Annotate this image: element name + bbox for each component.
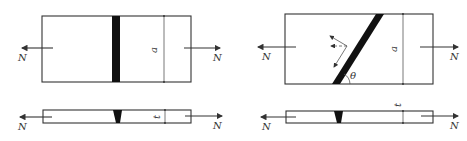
butt-weld-diagram: a N N t N N θ a N: [0, 0, 467, 141]
width-label-oblique: a: [388, 46, 399, 52]
thickness-label-oblique: t: [392, 102, 403, 107]
weld-oblique: [332, 14, 384, 84]
side-force-label-right-oblique: N: [449, 120, 460, 131]
weld-side-straight: [113, 110, 122, 123]
side-force-label-left: N: [17, 121, 28, 132]
weld-side-oblique: [334, 111, 343, 123]
normal-stress-arrow: [330, 36, 347, 46]
angle-label: θ: [350, 70, 356, 81]
force-label-right-oblique: N: [449, 51, 460, 62]
width-label: a: [148, 47, 159, 53]
weld-straight: [112, 16, 120, 82]
force-label-right: N: [212, 52, 223, 63]
straight-weld-panel: a N N t N N: [17, 16, 223, 132]
force-label-left: N: [17, 52, 28, 63]
plate-side-view-oblique: [286, 111, 433, 123]
oblique-weld-panel: θ a N N t N N: [258, 14, 460, 132]
side-force-label-left-oblique: N: [261, 121, 272, 132]
force-label-left-oblique: N: [261, 51, 272, 62]
thickness-label: t: [151, 114, 162, 119]
side-force-label-right: N: [212, 120, 223, 131]
